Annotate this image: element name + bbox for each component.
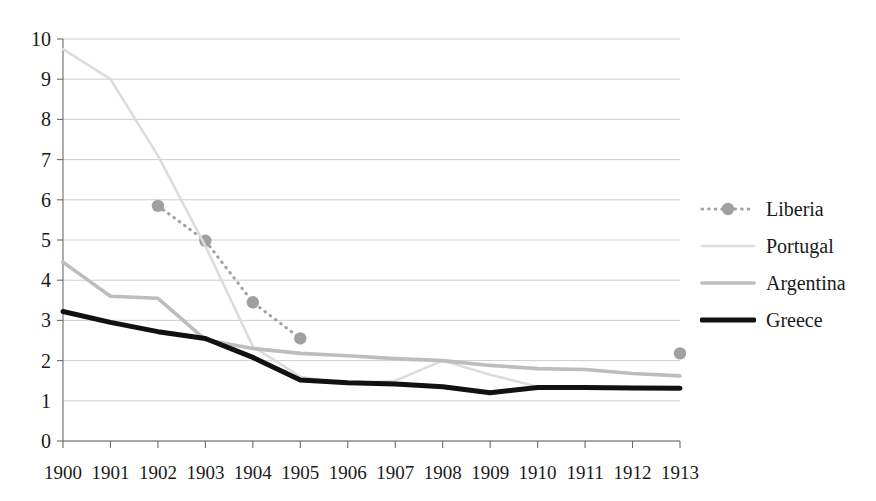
x-axis-tick-label-1912: 1912 xyxy=(609,463,657,482)
legend-swatch-argentina xyxy=(700,274,756,292)
y-axis-tick-label-6: 6 xyxy=(17,190,51,210)
legend-label-portugal: Portugal xyxy=(766,236,834,256)
legend-swatch-greece xyxy=(700,311,756,329)
y-axis-tick-label-3: 3 xyxy=(17,310,51,330)
y-axis-tick-label-4: 4 xyxy=(17,270,51,290)
data-point-liberia-1902 xyxy=(152,200,164,212)
data-point-liberia-1904 xyxy=(247,296,259,308)
x-axis-tick-label-1900: 1900 xyxy=(39,463,87,482)
x-axis-tick-label-1902: 1902 xyxy=(134,463,182,482)
y-axis-tick-label-0: 0 xyxy=(17,431,51,451)
x-axis-tick-label-1909: 1909 xyxy=(466,463,514,482)
x-axis-tick-label-1910: 1910 xyxy=(514,463,562,482)
y-axis-tick-label-5: 5 xyxy=(17,230,51,250)
legend-label-greece: Greece xyxy=(766,310,823,330)
x-axis-tick-label-1907: 1907 xyxy=(371,463,419,482)
x-axis-tick-label-1905: 1905 xyxy=(276,463,324,482)
legend-label-liberia: Liberia xyxy=(766,199,824,219)
x-axis-tick-label-1901: 1901 xyxy=(86,463,134,482)
x-axis-tick-label-1911: 1911 xyxy=(561,463,609,482)
x-axis-tick-label-1903: 1903 xyxy=(181,463,229,482)
legend-label-argentina: Argentina xyxy=(766,273,846,293)
legend-swatch-portugal xyxy=(700,237,756,255)
y-axis-tick-label-10: 10 xyxy=(17,29,51,49)
legend-item-portugal[interactable]: Portugal xyxy=(700,227,876,264)
y-axis-tick-label-9: 9 xyxy=(17,69,51,89)
legend-swatch-liberia xyxy=(700,200,756,218)
legend-item-liberia[interactable]: Liberia xyxy=(700,190,876,227)
y-axis-tick-label-7: 7 xyxy=(17,150,51,170)
chart-legend: Liberia Portugal Argentina Greece xyxy=(700,190,876,338)
x-axis-tick-label-1904: 1904 xyxy=(229,463,277,482)
x-axis-tick-label-1913: 1913 xyxy=(656,463,704,482)
data-point-liberia-1913 xyxy=(674,347,686,359)
x-axis-tick-label-1906: 1906 xyxy=(324,463,372,482)
data-series xyxy=(63,49,686,393)
series-line-greece xyxy=(63,312,680,393)
legend-item-greece[interactable]: Greece xyxy=(700,301,876,338)
chart-container: 109876543210 190019011902190319041905190… xyxy=(0,0,876,501)
y-axis-ticks xyxy=(57,39,63,441)
legend-item-argentina[interactable]: Argentina xyxy=(700,264,876,301)
gridlines xyxy=(63,39,680,441)
y-axis-tick-label-1: 1 xyxy=(17,391,51,411)
x-axis-ticks xyxy=(63,441,680,448)
y-axis-tick-label-2: 2 xyxy=(17,351,51,371)
series-line-argentina xyxy=(63,262,680,376)
y-axis-tick-label-8: 8 xyxy=(17,109,51,129)
data-point-liberia-1905 xyxy=(294,332,306,344)
x-axis-tick-label-1908: 1908 xyxy=(419,463,467,482)
